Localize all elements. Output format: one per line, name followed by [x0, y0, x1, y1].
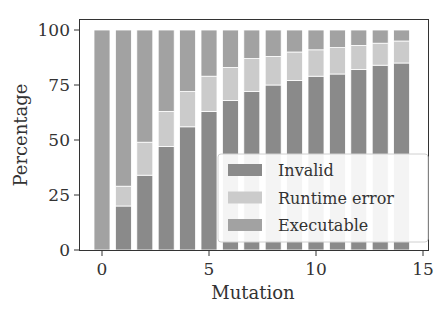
y-axis: 0255075100	[38, 20, 80, 260]
y-axis-label: Percentage	[10, 83, 31, 186]
bar-segment-runtime-error	[158, 111, 174, 146]
bar-segment-executable	[137, 30, 153, 142]
y-tick-label: 0	[59, 240, 70, 260]
bar-segment-executable	[265, 30, 281, 56]
y-tick-label: 50	[48, 130, 70, 150]
legend-swatch	[228, 192, 262, 204]
x-tick-label: 5	[204, 259, 215, 279]
bar-segment-runtime-error	[180, 92, 196, 127]
bar-segment-executable	[158, 30, 174, 111]
x-tick-label: 0	[97, 259, 108, 279]
bar-segment-runtime-error	[351, 45, 367, 69]
bar-segment-runtime-error	[329, 48, 345, 74]
bar-segment-executable	[372, 30, 388, 43]
bar-segment-executable	[180, 30, 196, 92]
bar-segment-executable	[201, 30, 217, 76]
bar-segment-executable	[115, 30, 131, 186]
bar-segment-runtime-error	[265, 56, 281, 85]
bar-segment-invalid	[137, 175, 153, 250]
bar-segment-executable	[308, 30, 324, 50]
bar-segment-runtime-error	[308, 50, 324, 76]
bar-segment-runtime-error	[137, 142, 153, 175]
bar-segment-runtime-error	[287, 52, 303, 81]
x-axis: 051015	[97, 251, 434, 280]
bar-segment-executable	[287, 30, 303, 52]
bar-segment-executable	[222, 30, 238, 67]
bar-segment-invalid	[180, 127, 196, 250]
x-tick-label: 10	[305, 259, 327, 279]
legend-swatch	[228, 164, 262, 176]
legend-label: Invalid	[278, 161, 334, 180]
bar-segment-invalid	[201, 111, 217, 250]
bar-segment-runtime-error	[372, 43, 388, 65]
bar-segment-runtime-error	[222, 67, 238, 100]
bar-segment-runtime-error	[394, 41, 410, 63]
legend-label: Executable	[278, 216, 368, 235]
x-tick-label: 15	[412, 259, 434, 279]
bar-segment-executable	[244, 30, 260, 59]
legend: InvalidRuntime errorExecutable	[218, 154, 428, 242]
bar-segment-executable	[94, 30, 110, 250]
y-tick-label: 75	[48, 75, 70, 95]
bar-segment-executable	[351, 30, 367, 45]
bar-segment-invalid	[115, 206, 131, 250]
y-tick-label: 100	[38, 20, 70, 40]
bar-segment-runtime-error	[115, 186, 131, 206]
bar-segment-runtime-error	[201, 76, 217, 111]
x-axis-label: Mutation	[211, 282, 295, 303]
stacked-bar-chart: 0255075100 051015 Mutation Percentage In…	[0, 0, 447, 316]
legend-swatch	[228, 219, 262, 231]
bar-segment-executable	[329, 30, 345, 48]
y-tick-label: 25	[48, 185, 70, 205]
bar-segment-executable	[394, 30, 410, 41]
bar-segment-invalid	[158, 147, 174, 250]
legend-label: Runtime error	[278, 189, 394, 208]
bar-segment-runtime-error	[244, 59, 260, 92]
